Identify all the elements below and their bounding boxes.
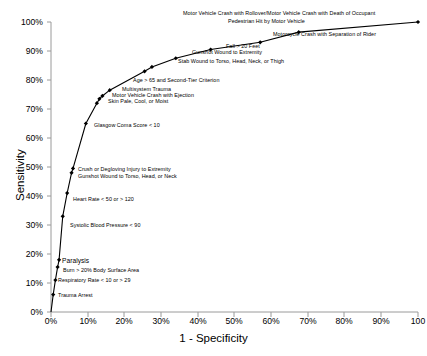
annotation-resp-rate: Respiratory Rate < 10 or > 29 — [58, 277, 130, 283]
y-axis-ticks — [47, 22, 51, 312]
roc-point — [51, 293, 55, 297]
annotation-heart-rate: Heart Rate < 50 or > 120 — [73, 196, 134, 202]
annotation-gunshot-extremity: Gunshot Wound to Extremity — [192, 49, 262, 55]
roc-point — [61, 214, 65, 218]
annotation-skin: Skin Pale, Cool, or Moist — [108, 98, 168, 104]
annotation-sbp: Systolic Blood Pressure < 90 — [70, 222, 140, 228]
roc-point — [57, 258, 61, 262]
roc-point — [416, 20, 420, 24]
annotation-motorcycle: Motorcycle Crash with Separation of Ride… — [273, 31, 376, 37]
roc-point — [65, 191, 69, 195]
roc-point — [53, 278, 57, 282]
annotation-age65: Age > 65 and Second-Tier Criterion — [133, 77, 219, 83]
annotation-rollover-death: Motor Vehicle Crash with Rollover/Motor … — [183, 10, 375, 16]
roc-point — [69, 171, 73, 175]
annotation-paralysis: Paralysis — [62, 258, 89, 264]
roc-chart: 100% 90% 80% 70% 60% 50% 40% 30% 20% 10%… — [0, 0, 427, 356]
roc-point — [84, 121, 88, 125]
annotation-gunshot-torso: Gunshot Wound to Torso, Head, or Neck — [78, 173, 177, 179]
annotation-stab: Stab Wound to Torso, Head, Neck, or Thig… — [178, 58, 284, 64]
roc-point — [71, 166, 75, 170]
annotation-burn: Burn > 20% Body Surface Area — [63, 267, 139, 273]
annotation-crush: Crush or Degloving Injury to Extremity — [78, 166, 171, 172]
annotation-pedestrian: Pedestrian Hit by Motor Vehicle — [228, 18, 305, 24]
annotation-trauma-arrest: Trauma Arrest — [58, 292, 93, 298]
annotation-gcs: Glasgow Coma Score < 10 — [94, 122, 160, 128]
x-axis-ticks — [51, 312, 418, 317]
roc-point — [56, 265, 60, 269]
